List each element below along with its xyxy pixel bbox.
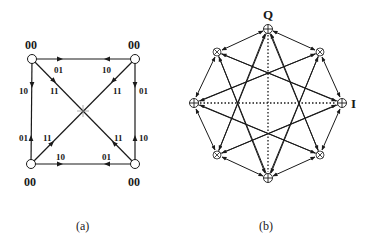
circle-plus-icon: [264, 174, 273, 183]
edge-label-diag-tr: 11: [113, 86, 122, 96]
axis-label-q: Q: [263, 7, 273, 22]
edge-label-top-right: 10: [102, 65, 112, 75]
caption-b: (b): [259, 219, 273, 233]
diagonal-nodes: [213, 48, 324, 159]
node-br: [131, 160, 140, 169]
node-label-tl: 00: [25, 38, 37, 52]
circle-times-icon: [316, 48, 324, 56]
node-bl: [27, 160, 36, 169]
edge-label-top-left: 01: [54, 65, 64, 75]
node-label-bl: 00: [24, 175, 36, 189]
edge-label-bottom-left: 10: [56, 152, 66, 162]
node-label-br: 00: [128, 175, 140, 189]
edge-label-left-bottom: 01: [19, 133, 29, 143]
circle-times-icon: [316, 151, 324, 159]
edge-label-diag-br: 11: [114, 133, 123, 143]
edge-label-bottom-right: 01: [102, 152, 112, 162]
node-tr: [131, 55, 140, 64]
panel-a: 00 00 00 00 01 10 10 01 01 10 10 01 11 1…: [19, 38, 149, 233]
dotted-axes: [200, 35, 336, 172]
node-label-tr: 00: [128, 38, 140, 52]
circle-plus-icon: [338, 99, 347, 108]
node-tl: [28, 55, 37, 64]
edge-label-right-bottom: 10: [139, 133, 149, 143]
caption-a: (a): [76, 219, 89, 233]
panel-b: Q I (b): [190, 7, 357, 233]
circle-plus-icon: [190, 99, 199, 108]
axis-label-i: I: [351, 96, 356, 111]
edge-label-right-top: 01: [139, 86, 149, 96]
circle-times-icon: [213, 48, 221, 56]
circle-plus-icon: [264, 25, 273, 34]
edge-label-diag-tl: 11: [50, 86, 59, 96]
edge-label-diag-bl: 11: [43, 133, 52, 143]
edge-label-left-top: 10: [19, 86, 29, 96]
figure: 00 00 00 00 01 10 10 01 01 10 10 01 11 1…: [0, 0, 376, 247]
circle-times-icon: [213, 151, 221, 159]
